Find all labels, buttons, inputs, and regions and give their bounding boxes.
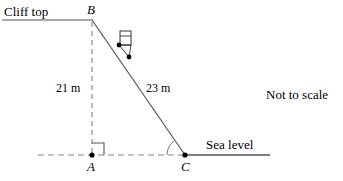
marker-box-icon [120,31,131,45]
not-to-scale-note: Not to scale [266,88,328,101]
point-C-dot [182,152,187,157]
geometry-diagram: Cliff top B A C 21 m 23 m Sea level Not … [0,0,343,181]
marker-dot-lower [127,55,132,60]
point-label-B: B [87,3,95,16]
sea-level-label: Sea level [206,138,253,151]
angle-arc-at-C [167,141,174,155]
slope-line-BC [92,20,185,155]
point-label-C: C [181,160,190,173]
marker-dot-upper [117,43,122,48]
measurement-label-vertical: 21 m [56,82,80,94]
measurement-label-hypotenuse: 23 m [146,82,170,94]
cliff-top-label: Cliff top [4,5,48,18]
point-A-dot [89,152,94,157]
point-label-A: A [87,160,95,173]
